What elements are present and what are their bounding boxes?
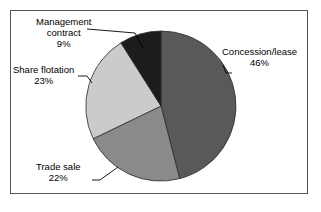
slice-label-management-contract: Management contract 9% (36, 16, 91, 49)
leader-line-trade-sale (92, 167, 118, 180)
slice-label-concession-lease-value: 46% (222, 57, 297, 68)
slice-label-concession-lease: Concession/lease 46% (222, 46, 297, 68)
slice-label-management-contract-line2: contract (36, 27, 91, 38)
slice-label-trade-sale: Trade sale 22% (36, 161, 81, 183)
slice-label-trade-sale-value: 22% (36, 172, 81, 183)
slice-label-share-flotation-value: 23% (13, 75, 74, 86)
slice-label-trade-sale-text: Trade sale (36, 161, 81, 172)
pie-chart-figure: Concession/lease 46% Management contract… (0, 0, 321, 212)
slice-label-share-flotation: Share flotation 23% (13, 64, 74, 86)
slice-label-concession-lease-text: Concession/lease (222, 46, 297, 57)
slice-label-management-contract-value: 9% (36, 38, 91, 49)
slice-label-management-contract-line1: Management (36, 16, 91, 27)
slice-label-share-flotation-text: Share flotation (13, 64, 74, 75)
